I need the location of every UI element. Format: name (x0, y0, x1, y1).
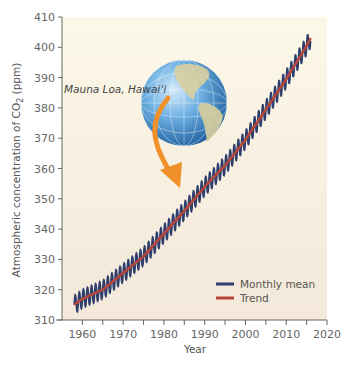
x-axis: 1960197019801990200020102020 (56, 320, 341, 341)
x-tick-label: 1990 (191, 328, 219, 341)
x-tick-label: 1960 (68, 328, 96, 341)
x-axis-title: Year (183, 343, 207, 355)
y-axis: 310320330340350360370380390400410 (34, 11, 62, 327)
y-tick-label: 330 (34, 253, 55, 266)
x-tick-label: 1970 (109, 328, 137, 341)
location-annotation: Mauna Loa, Hawai‘i (64, 83, 167, 95)
y-tick-label: 320 (34, 284, 55, 297)
y-tick-label: 350 (34, 193, 55, 206)
y-tick-label: 390 (34, 72, 55, 85)
co2-chart: 310320330340350360370380390400410 196019… (0, 0, 346, 367)
x-tick-label: 1980 (150, 328, 178, 341)
y-tick-label: 370 (34, 132, 55, 145)
y-axis-title: Atmospheric concentration of CO2 (ppm) (10, 63, 25, 278)
x-tick-label: 2000 (231, 328, 259, 341)
y-tick-label: 410 (34, 11, 55, 24)
y-tick-label: 360 (34, 163, 55, 176)
y-tick-label: 400 (34, 41, 55, 54)
legend-label-trend: Trend (239, 292, 269, 304)
y-tick-label: 340 (34, 223, 55, 236)
y-tick-label: 380 (34, 102, 55, 115)
x-tick-label: 2020 (313, 328, 341, 341)
legend-label-monthly: Monthly mean (240, 278, 315, 290)
x-tick-label: 2010 (272, 328, 300, 341)
y-tick-label: 310 (34, 314, 55, 327)
